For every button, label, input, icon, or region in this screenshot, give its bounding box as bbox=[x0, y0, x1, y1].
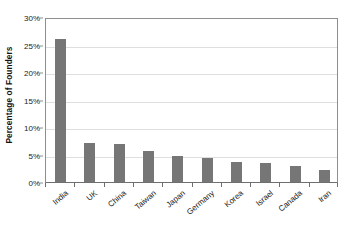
x-axis-tick-label-text: China bbox=[106, 188, 129, 209]
y-axis-tick-mark bbox=[40, 155, 43, 156]
x-axis-tick-label-text: Canada bbox=[277, 188, 305, 214]
y-axis-tick-mark bbox=[40, 73, 43, 74]
y-axis-tick-mark bbox=[40, 18, 43, 19]
bar-taiwan bbox=[143, 151, 154, 182]
y-axis-tick-mark bbox=[40, 45, 43, 46]
y-axis-tick-mark bbox=[40, 100, 43, 101]
x-axis-tick-label-text: India bbox=[51, 188, 71, 207]
bar-canada bbox=[290, 166, 301, 182]
bar-india bbox=[55, 39, 66, 182]
y-axis-tick-label: 10% bbox=[24, 124, 40, 133]
bar-uk bbox=[84, 143, 95, 182]
x-axis-tick-labels: IndiaUKChinaTaiwanJapanGermanyKoreaIsrae… bbox=[45, 188, 349, 230]
y-axis-tick-label: 25% bbox=[24, 41, 40, 50]
y-axis-tick-mark bbox=[40, 183, 43, 184]
y-axis-title-label: Percentage of Founders bbox=[4, 46, 14, 143]
bar-china bbox=[114, 144, 125, 183]
y-axis-tick-labels: 0%5%10%15%20%25%30% bbox=[16, 18, 43, 183]
y-axis-tick-mark bbox=[40, 128, 43, 129]
y-axis-tick-label: 30% bbox=[24, 14, 40, 23]
x-axis-tick-label-text: Taiwan bbox=[133, 188, 159, 212]
bars-layer bbox=[46, 19, 337, 182]
x-axis-tick-mark bbox=[45, 183, 46, 187]
x-axis-tick-label-text: Korea bbox=[223, 188, 246, 209]
x-axis-tick-label-text: Iran bbox=[317, 188, 334, 204]
y-axis-tick-label: 5% bbox=[28, 151, 40, 160]
x-axis-tick-label-text: Japan bbox=[164, 188, 187, 210]
x-axis-tick-label-text: UK bbox=[85, 188, 100, 203]
y-axis-tick-label: 20% bbox=[24, 69, 40, 78]
plot-area bbox=[45, 18, 338, 183]
bar-chart-figure: Percentage of Founders 0%5%10%15%20%25%3… bbox=[0, 0, 349, 230]
y-axis-tick-label: 15% bbox=[24, 96, 40, 105]
x-axis-tick-label-text: Israel bbox=[254, 188, 276, 208]
y-axis-tick-label: 0% bbox=[28, 179, 40, 188]
